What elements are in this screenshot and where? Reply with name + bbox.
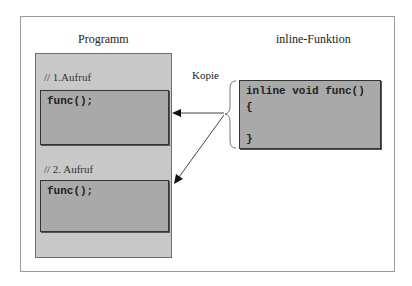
arrowhead-icon: [174, 174, 183, 184]
brace-icon: [225, 81, 236, 148]
arrow-to-call-2: [179, 115, 224, 177]
arrowhead-icon: [172, 109, 181, 117]
arrows-layer: [0, 0, 412, 286]
